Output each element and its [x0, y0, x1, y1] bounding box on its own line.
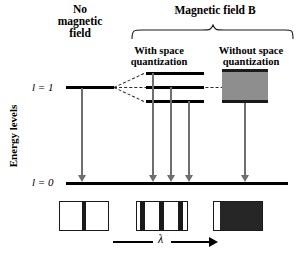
spectral-line-right [178, 202, 183, 230]
with-space-quantization-title: With space quantization [118, 45, 200, 67]
wavelength-symbol: λ [158, 232, 163, 247]
spectrum-without-quantization [213, 201, 263, 231]
no-magnetic-field-title: No magnetic field [38, 3, 122, 39]
spectrum-no-field [59, 201, 109, 231]
split-level-top [146, 72, 204, 75]
spectral-line-left [140, 202, 145, 230]
transition-arrowhead-q2 [167, 175, 175, 182]
transition-arrowhead-q3 [185, 175, 193, 182]
broadened-energy-band [222, 69, 268, 103]
spectral-band-broad [220, 202, 262, 230]
split-fan-lower [114, 87, 144, 102]
transition-arrowhead-no-field [78, 175, 86, 182]
level-label-l1: l = 1 [32, 81, 53, 93]
transition-arrow-broad [244, 103, 246, 176]
ground-level-line [66, 182, 288, 185]
level-label-l0: l = 0 [32, 176, 53, 188]
transition-arrow-q1 [152, 73, 154, 176]
spectrum-with-quantization [136, 201, 188, 231]
transition-arrowhead-broad [241, 175, 249, 182]
spectral-line-middle [159, 202, 164, 230]
without-space-quantization-title: Without space quantization [205, 45, 297, 67]
transition-arrow-q3 [188, 101, 190, 176]
magnetic-field-title: Magnetic field B [133, 4, 297, 16]
wavelength-axis [113, 234, 218, 250]
transition-arrowhead-q1 [149, 175, 157, 182]
spectral-line-single [82, 202, 86, 230]
unsplit-upper-level [66, 86, 114, 89]
split-level-bottom [146, 100, 204, 103]
energy-level-zeeman-diagram: No magnetic field Magnetic field B With … [0, 0, 305, 254]
magnetic-field-brace [130, 24, 296, 40]
split-level-center [146, 86, 204, 89]
split-fan-upper [114, 73, 144, 88]
transition-arrow-no-field [81, 88, 83, 176]
energy-levels-axis-label: Energy levels [7, 94, 19, 178]
transition-arrow-q2 [170, 87, 172, 176]
